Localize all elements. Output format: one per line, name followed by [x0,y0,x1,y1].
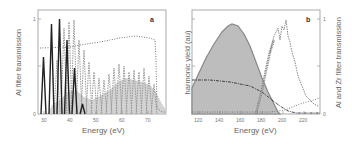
panel-a-ytick-0: 0 [33,111,36,117]
panel-a-xtick-50: 50 [93,117,99,123]
panel-b-xtick-200: 200 [278,117,286,123]
panel-b-xtick-180: 180 [257,117,265,123]
panel-a-xtick-40: 40 [67,117,73,123]
panel-b-ylabel-right: Al and Zr filter transmission [334,8,343,118]
panel-b-ylabel: harmonic yield (au) [183,23,192,103]
figure: Al filter transmission 1 0 30 40 50 60 7… [0,0,352,144]
panel-b-xtick-220: 220 [299,117,307,123]
panel-b-xtick-140: 140 [215,117,223,123]
panel-b-xtick-120: 120 [194,117,202,123]
panel-b-label: b [306,16,310,23]
panel-b-xtick-160: 160 [236,117,244,123]
panel-b-ytick-right-1: 1 [323,16,326,22]
panel-a-ylabel: Al filter transmission [14,23,23,103]
panel-b-ytick-right-0: 0 [323,111,326,117]
panel-a-ytick-1: 1 [33,16,36,22]
panel-a-xlabel: Energy (eV) [82,126,125,135]
panel-a-xtick-70: 70 [145,117,151,123]
panel-b-xlabel: Energy (eV) [234,126,277,135]
panel-a-xtick-30: 30 [41,117,47,123]
panel-a-label: a [150,16,154,23]
panel-a-xtick-60: 60 [119,117,125,123]
